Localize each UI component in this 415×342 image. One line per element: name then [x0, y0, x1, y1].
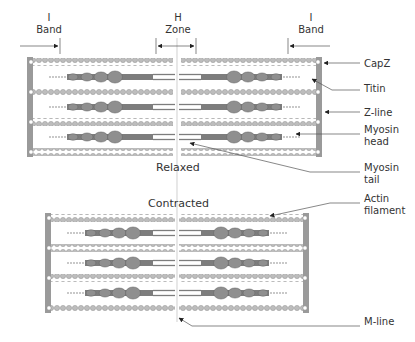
- z-line-left: [27, 57, 33, 157]
- myosin-head-line2: head: [364, 136, 399, 148]
- callout-titin: Titin: [364, 83, 386, 95]
- callout-m-line: M-line: [364, 316, 394, 328]
- actin-filament-line2: filament: [364, 205, 405, 217]
- sarcomere-diagram: [0, 0, 415, 342]
- z-line-right: [303, 213, 309, 313]
- i-band-left-line1: I: [34, 12, 64, 24]
- h-zone-line2: Zone: [160, 24, 196, 36]
- i-band-right-line1: I: [296, 12, 326, 24]
- z-line-left: [45, 213, 51, 313]
- h-zone-label: H Zone: [160, 12, 196, 36]
- z-line-right: [316, 57, 322, 157]
- callout-myosin-head: Myosin head: [364, 124, 399, 148]
- callout-capz: CapZ: [364, 58, 390, 70]
- h-zone-line1: H: [160, 12, 196, 24]
- relaxed-sarcomere: [27, 57, 322, 157]
- i-band-right-label: I Band: [296, 12, 326, 36]
- myosin-head-line1: Myosin: [364, 124, 399, 136]
- relaxed-label: Relaxed: [156, 162, 200, 174]
- callout-actin-filament: Actin filament: [364, 193, 405, 217]
- myosin-tail-line2: tail: [364, 174, 399, 186]
- contracted-label: Contracted: [148, 198, 209, 210]
- i-band-right-line2: Band: [296, 24, 326, 36]
- actin-filament-line1: Actin: [364, 193, 405, 205]
- callout-myosin-tail: Myosin tail: [364, 162, 399, 186]
- myosin-tail-line1: Myosin: [364, 162, 399, 174]
- i-band-left-line2: Band: [34, 24, 64, 36]
- callout-z-line: Z-line: [364, 107, 392, 119]
- i-band-left-label: I Band: [34, 12, 64, 36]
